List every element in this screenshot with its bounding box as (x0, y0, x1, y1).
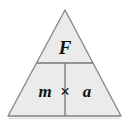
multiply-operator-icon: × (60, 82, 70, 101)
bottom-left-cell-label-mass: m (38, 82, 51, 101)
formula-triangle-screenshot: F m × a (0, 0, 129, 128)
bottom-right-cell-label-acceleration: a (83, 82, 92, 101)
formula-triangle-figure: F m × a (0, 0, 129, 128)
top-cell-label-force: F (58, 37, 72, 58)
